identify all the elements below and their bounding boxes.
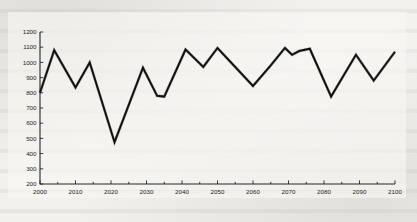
y-tick-label: 1200 xyxy=(23,28,37,35)
x-tick-label: 2040 xyxy=(175,188,189,195)
y-tick-label: 1100 xyxy=(23,43,37,50)
x-axis-tick-labels: 2000201020202030204020502060207020802090… xyxy=(33,188,402,195)
y-tick-label: 800 xyxy=(26,89,37,96)
chart-axes xyxy=(40,32,395,184)
x-tick-label: 2020 xyxy=(104,188,118,195)
y-tick-label: 300 xyxy=(26,165,37,172)
series-line-1 xyxy=(40,48,395,142)
x-tick-label: 2100 xyxy=(388,188,402,195)
y-tick-label: 700 xyxy=(26,104,37,111)
y-tick-label: 500 xyxy=(26,135,37,142)
x-tick-label: 2060 xyxy=(246,188,260,195)
x-tick-label: 2080 xyxy=(317,188,331,195)
x-tick-label: 2000 xyxy=(33,188,47,195)
series-line-halo xyxy=(40,48,395,142)
scanned-page: 200300400500600700800900100011001200 200… xyxy=(0,0,417,222)
y-axis-tick-labels: 200300400500600700800900100011001200 xyxy=(23,28,37,187)
y-tick-label: 1000 xyxy=(23,59,37,66)
y-tick-label: 200 xyxy=(26,180,37,187)
x-tick-label: 2090 xyxy=(353,188,367,195)
y-tick-label: 400 xyxy=(26,150,37,157)
y-tick-label: 900 xyxy=(26,74,37,81)
y-tick-label: 600 xyxy=(26,119,37,126)
x-tick-label: 2050 xyxy=(211,188,225,195)
x-tick-label: 2030 xyxy=(140,188,154,195)
line-chart: 200300400500600700800900100011001200 200… xyxy=(0,0,417,222)
x-tick-label: 2010 xyxy=(69,188,83,195)
x-tick-label: 2070 xyxy=(282,188,296,195)
